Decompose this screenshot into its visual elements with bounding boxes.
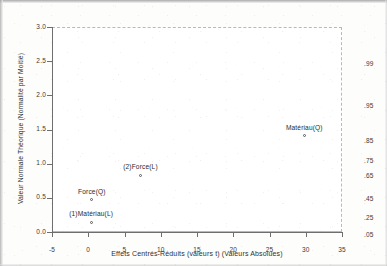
y-axis-tick bbox=[47, 130, 52, 131]
right-axis-tick-label: .65 bbox=[364, 164, 386, 173]
x-axis-tick bbox=[88, 233, 89, 237]
right-axis-tick-label: .95 bbox=[364, 94, 386, 103]
data-point-marker bbox=[90, 221, 93, 224]
right-axis-tick-label-text: .95 bbox=[364, 102, 374, 109]
y-axis-tick bbox=[47, 164, 52, 165]
data-point-marker bbox=[139, 174, 142, 177]
x-axis-tick bbox=[161, 233, 162, 237]
data-point-label: (1)Matériau(L) bbox=[69, 210, 113, 217]
y-axis-tick bbox=[47, 61, 52, 62]
right-axis-tick-label: .45 bbox=[364, 187, 386, 196]
y-axis-tick bbox=[47, 198, 52, 199]
right-axis-tick-label: .85 bbox=[364, 129, 386, 138]
x-axis-tick bbox=[306, 233, 307, 237]
right-axis-tick-label-text: .99 bbox=[364, 60, 374, 67]
data-point-label: Force(Q) bbox=[78, 188, 106, 195]
y-axis-tick bbox=[47, 27, 52, 28]
y-axis-tick-label-text: 3.0 bbox=[24, 23, 46, 30]
scan-edge-top bbox=[0, 0, 387, 3]
x-axis-tick bbox=[52, 233, 53, 237]
y-axis-tick-label-text: 0.0 bbox=[24, 228, 46, 235]
x-axis-tick bbox=[233, 233, 234, 237]
y-axis-tick-label-text: 2.0 bbox=[24, 91, 46, 98]
right-axis-tick-label: .05 bbox=[364, 223, 386, 232]
x-axis-tick bbox=[342, 233, 343, 237]
y-axis-tick-label-text: 2.5 bbox=[24, 57, 46, 64]
half-normal-plot-figure: 0.00.51.01.52.02.53.0 -505101520253035 .… bbox=[0, 0, 387, 266]
scan-edge-left bbox=[0, 0, 3, 266]
right-axis-tick-label-text: .75 bbox=[364, 157, 374, 164]
y-axis-tick-label-text: 1.5 bbox=[24, 125, 46, 132]
y-axis-title: Valeur Normale Théorique (Normalité par … bbox=[17, 26, 24, 231]
y-axis-tick-label-text: 1.0 bbox=[24, 159, 46, 166]
right-axis-tick-label: .99 bbox=[364, 52, 386, 61]
x-axis-tick bbox=[197, 233, 198, 237]
y-axis-line bbox=[52, 27, 53, 233]
right-axis-tick-label: .25 bbox=[364, 206, 386, 215]
x-axis-title: Effets Centrés-Réduits (valeurs t) (Vale… bbox=[52, 250, 342, 257]
y-axis-tick-label-text: 0.5 bbox=[24, 193, 46, 200]
x-axis-tick bbox=[270, 233, 271, 237]
right-axis-tick-label-text: .45 bbox=[364, 195, 374, 202]
data-point-label: Matériau(Q) bbox=[286, 124, 323, 131]
data-point-label: (2)Force(L) bbox=[123, 163, 158, 170]
right-axis-tick-label-text: .25 bbox=[364, 214, 374, 221]
right-axis-tick-label-text: .85 bbox=[364, 137, 374, 144]
data-point-marker bbox=[303, 134, 306, 137]
x-axis-tick bbox=[125, 233, 126, 237]
right-axis-tick-label: .75 bbox=[364, 149, 386, 158]
y-axis-tick bbox=[47, 95, 52, 96]
right-axis-tick-label-text: .65 bbox=[364, 172, 374, 179]
right-axis-tick-label-text: .05 bbox=[364, 231, 374, 238]
